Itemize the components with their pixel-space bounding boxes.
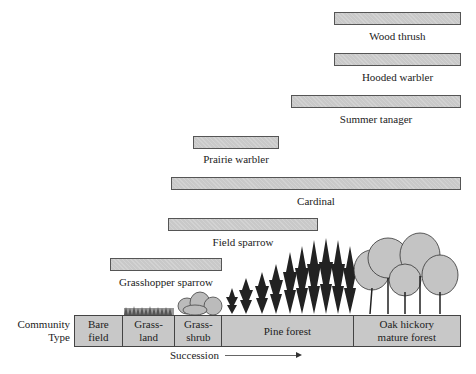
- community-cell: Oak hickorymature forest: [354, 316, 460, 346]
- community-label-line2: Type: [17, 331, 70, 344]
- community-cell-line2: shrub: [184, 331, 213, 344]
- community-cell-line2: mature forest: [378, 331, 436, 344]
- community-cell: Grass-land: [123, 316, 176, 346]
- community-cell-line1: Grass-: [184, 318, 213, 331]
- community-label-line1: Community: [17, 318, 70, 331]
- succession-arrow-icon: [225, 355, 297, 356]
- community-cell: Pine forest: [222, 316, 353, 346]
- pine-tree-icon: [226, 238, 357, 314]
- community-cell: Barefield: [75, 316, 123, 346]
- community-cell: Grass-shrub: [175, 316, 222, 346]
- community-type-label: Community Type: [17, 318, 70, 344]
- shrub-icon: [178, 292, 222, 315]
- grass-icon: [124, 306, 174, 315]
- community-cell-line1: Grass-: [134, 318, 163, 331]
- oak-tree-icon: [354, 233, 458, 314]
- community-cell-line1: Oak hickory: [378, 318, 436, 331]
- community-cell-line2: land: [134, 331, 163, 344]
- community-type-bar: BarefieldGrass-landGrass-shrubPine fores…: [74, 315, 461, 347]
- succession-label: Succession: [170, 349, 219, 361]
- community-cell-line1: Bare: [88, 318, 109, 331]
- community-cell-line2: field: [88, 331, 109, 344]
- community-cell-line1: Pine forest: [264, 325, 311, 338]
